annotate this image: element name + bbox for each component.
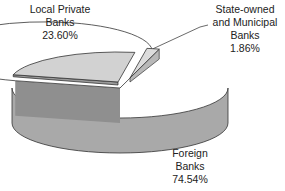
label-foreign-value: 74.54% bbox=[172, 173, 208, 185]
label-state-owned-value: 1.86% bbox=[230, 42, 260, 54]
label-local-private-line1: Local Private bbox=[30, 3, 91, 15]
label-state-owned-line2: and Municipal bbox=[213, 16, 278, 28]
label-local-private-line2: Banks bbox=[45, 16, 74, 28]
label-foreign-line1: Foreign bbox=[172, 147, 208, 159]
label-foreign-line2: Banks bbox=[175, 160, 204, 172]
label-local-private-value: 23.60% bbox=[42, 29, 78, 41]
label-state-owned-line1: State-owned bbox=[216, 3, 275, 15]
label-state-owned-line3: Banks bbox=[230, 29, 259, 41]
pie-chart: Local Private Banks 23.60% State-owned a… bbox=[0, 0, 285, 191]
leader-line-state-owned bbox=[153, 25, 208, 49]
